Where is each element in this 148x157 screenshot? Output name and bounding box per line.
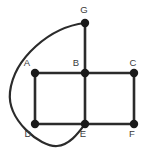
vertex-label-a: A xyxy=(24,57,31,68)
vertex-label-c: C xyxy=(130,57,137,68)
vertex-label-g: G xyxy=(80,4,87,15)
vertex-a xyxy=(31,69,39,77)
vertex-d xyxy=(31,120,39,128)
vertex-label-e: E xyxy=(80,128,86,139)
vertex-c xyxy=(130,69,138,77)
edge-g-e-curved xyxy=(10,23,85,146)
vertex-label-f: F xyxy=(129,128,135,139)
vertex-g xyxy=(81,19,89,27)
graph-figure: G A B C D E F xyxy=(0,0,148,157)
graph-canvas: G A B C D E F xyxy=(0,0,148,157)
vertex-b xyxy=(81,69,89,77)
vertex-label-d: D xyxy=(25,128,32,139)
vertex-e xyxy=(81,120,89,128)
vertex-f xyxy=(130,120,138,128)
vertex-label-b: B xyxy=(73,57,79,68)
